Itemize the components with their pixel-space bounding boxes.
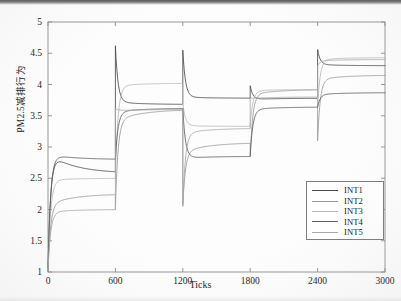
legend-swatch-icon — [312, 201, 338, 202]
chart-figure: 11.522.533.544.55 06001200180024003000 P… — [0, 0, 401, 301]
legend-item-int5[interactable]: INT5 — [307, 227, 383, 237]
legend-item-int2[interactable]: INT2 — [307, 196, 383, 206]
y-tick-label: 2 — [14, 205, 42, 215]
legend-label: INT2 — [344, 197, 363, 206]
y-tick-label: 5 — [14, 17, 42, 27]
x-axis-label: Ticks — [0, 279, 401, 290]
legend-label: INT1 — [344, 186, 363, 195]
y-axis-label: PM2.5减排行为 — [13, 39, 27, 159]
plot-canvas — [0, 0, 401, 301]
legend-swatch-icon — [312, 221, 338, 222]
legend-label: INT5 — [344, 228, 363, 237]
chart-legend[interactable]: INT1INT2INT3INT4INT5 — [306, 181, 384, 240]
legend-swatch-icon — [312, 232, 338, 233]
legend-swatch-icon — [312, 190, 338, 191]
legend-label: INT4 — [344, 218, 363, 227]
y-tick-label: 1.5 — [14, 236, 42, 246]
legend-label: INT3 — [344, 207, 363, 216]
legend-item-int3[interactable]: INT3 — [307, 206, 383, 216]
legend-item-int1[interactable]: INT1 — [307, 186, 383, 196]
legend-swatch-icon — [312, 211, 338, 212]
y-tick-label: 1 — [14, 267, 42, 277]
y-tick-label: 2.5 — [14, 173, 42, 183]
legend-item-int4[interactable]: INT4 — [307, 217, 383, 227]
